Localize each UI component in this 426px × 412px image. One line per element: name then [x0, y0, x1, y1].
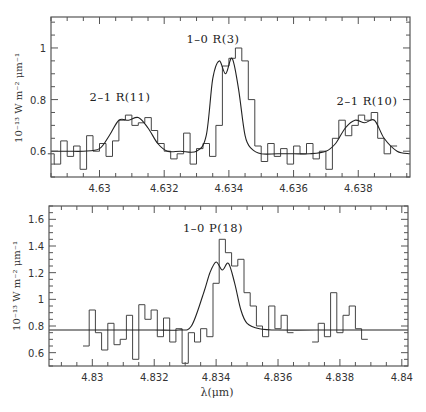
y-tick-label: 0.6	[28, 348, 44, 359]
x-tick-label: 4.84	[391, 372, 413, 383]
y-tick-label: 1.6	[28, 214, 44, 225]
bottom-y-axis-label: 10⁻¹³ W m⁻² μm⁻¹	[11, 241, 22, 331]
annotation-1-0-R3: 1–0 R(3)	[187, 32, 240, 46]
x-tick-label: 4.634	[215, 183, 244, 194]
bottom-panel: 4.834.8324.8344.8364.8384.840.60.811.21.…	[11, 206, 413, 399]
y-tick-label: 1.4	[28, 241, 44, 252]
y-tick-label: 1	[38, 294, 44, 305]
top-panel: 4.634.6324.6344.6364.6380.60.81 10⁻¹³ W …	[13, 17, 410, 194]
y-tick-label: 1.2	[28, 268, 44, 279]
x-tick-label: 4.832	[140, 372, 169, 383]
y-tick-label: 0.6	[30, 146, 46, 157]
annotation-1-0-P18: 1–0 P(18)	[183, 221, 243, 235]
annotation-2-1-R11: 2–1 R(11)	[90, 90, 151, 104]
y-tick-label: 0.8	[28, 321, 44, 332]
x-tick-label: 4.834	[202, 372, 231, 383]
x-tick-label: 4.836	[264, 372, 293, 383]
x-tick-label: 4.638	[344, 183, 373, 194]
annotation-2-1-R10: 2–1 R(10)	[337, 94, 398, 108]
spectrum-histogram	[83, 239, 368, 363]
bottom-observed-spectrum	[83, 239, 368, 363]
x-tick-label: 4.83	[81, 372, 103, 383]
top-y-axis-label: 10⁻¹³ W m⁻² μm⁻¹	[13, 53, 24, 143]
x-tick-label: 4.63	[88, 183, 110, 194]
spectrum-figure: 4.634.6324.6344.6364.6380.60.81 10⁻¹³ W …	[0, 0, 426, 412]
y-tick-label: 0.8	[30, 95, 46, 106]
y-tick-label: 1	[40, 43, 46, 54]
x-axis-label: λ(μm)	[200, 386, 233, 399]
bottom-model-fit	[49, 262, 408, 330]
x-tick-label: 4.636	[279, 183, 308, 194]
x-tick-label: 4.838	[326, 372, 355, 383]
fit-curve	[49, 262, 408, 330]
x-tick-label: 4.632	[150, 183, 179, 194]
